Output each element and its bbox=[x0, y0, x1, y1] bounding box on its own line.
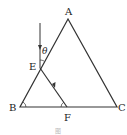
label-c: C bbox=[118, 102, 126, 113]
figure-caption: 图 bbox=[55, 127, 61, 135]
angle-arc-b bbox=[23, 102, 26, 107]
label-b: B bbox=[9, 102, 16, 113]
refracted-ray bbox=[40, 68, 67, 107]
theta-arc bbox=[40, 60, 44, 61]
prism-diagram: A B C E F θ 图 bbox=[0, 0, 127, 135]
label-theta: θ bbox=[42, 46, 48, 56]
label-f: F bbox=[64, 112, 71, 123]
label-a: A bbox=[64, 6, 73, 17]
label-e: E bbox=[29, 61, 36, 72]
